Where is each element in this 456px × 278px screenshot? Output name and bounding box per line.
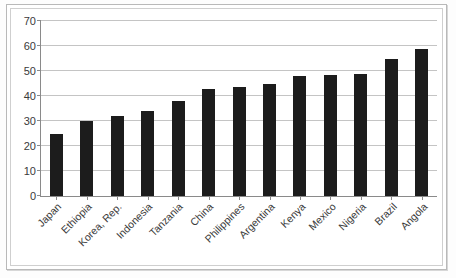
bar-slot	[132, 21, 162, 196]
y-tick-label: 40	[24, 91, 36, 102]
x-tick-mark	[178, 196, 179, 200]
x-label-slot: Brazil	[376, 201, 407, 261]
x-tick-mark	[391, 196, 392, 200]
x-axis-labels: JapanEthiopiaKorea, Rep.IndonesiaTanzani…	[40, 201, 437, 261]
plot-area: 010203040506070	[40, 21, 437, 197]
x-tick-mark	[361, 196, 362, 200]
y-tick-label: 30	[24, 116, 36, 127]
x-tick-mark	[209, 196, 210, 200]
bar-slot	[346, 21, 376, 196]
bar[interactable]	[233, 87, 246, 196]
bar[interactable]	[293, 76, 306, 196]
bar-slot	[254, 21, 284, 196]
y-tick-label: 20	[24, 141, 36, 152]
bar[interactable]	[354, 74, 367, 197]
bar[interactable]	[202, 89, 215, 197]
x-label-slot: Argentina	[254, 201, 285, 261]
bar[interactable]	[385, 59, 398, 197]
x-tick-label: China	[189, 201, 217, 229]
bar-slot	[224, 21, 254, 196]
bar[interactable]	[324, 75, 337, 196]
x-tick-mark	[117, 196, 118, 200]
x-tick-mark	[239, 196, 240, 200]
x-tick-mark	[56, 196, 57, 200]
bar[interactable]	[50, 134, 63, 197]
x-tick-mark	[300, 196, 301, 200]
x-label-slot: Kenya	[284, 201, 315, 261]
y-tick-label: 50	[24, 66, 36, 77]
bar[interactable]	[141, 111, 154, 196]
bar-chart-figure: 010203040506070 JapanEthiopiaKorea, Rep.…	[0, 0, 456, 278]
bar-slot	[285, 21, 315, 196]
bar[interactable]	[80, 121, 93, 196]
bar-slot	[102, 21, 132, 196]
x-tick-mark	[330, 196, 331, 200]
bar-slot	[71, 21, 101, 196]
x-label-slot: Tanzania	[162, 201, 193, 261]
y-tick-label: 70	[24, 16, 36, 27]
bar-slot	[163, 21, 193, 196]
bars-group	[41, 21, 437, 196]
bar[interactable]	[172, 101, 185, 196]
bar-slot	[41, 21, 71, 196]
x-tick-mark	[422, 196, 423, 200]
bar-slot	[315, 21, 345, 196]
x-tick-mark	[87, 196, 88, 200]
y-tick-label: 0	[30, 191, 36, 202]
x-label-slot: Mexico	[315, 201, 346, 261]
x-tick-label: Brazil	[373, 201, 400, 228]
bar-slot	[376, 21, 406, 196]
y-tick-label: 60	[24, 41, 36, 52]
y-tick-label: 10	[24, 166, 36, 177]
bar-slot	[193, 21, 223, 196]
x-tick-mark	[270, 196, 271, 200]
x-label-slot: Nigeria	[345, 201, 376, 261]
bar[interactable]	[415, 49, 428, 197]
bar[interactable]	[111, 116, 124, 196]
x-tick-mark	[148, 196, 149, 200]
bar-slot	[407, 21, 437, 196]
x-label-slot: Angola	[406, 201, 437, 261]
bar[interactable]	[263, 84, 276, 197]
